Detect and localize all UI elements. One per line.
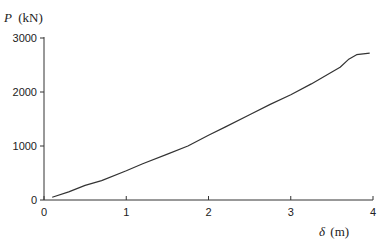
- y-axis-title: P (kN): [3, 10, 43, 25]
- y-tick-label: 2000: [13, 86, 37, 98]
- y-tick-label: 1000: [13, 140, 37, 152]
- y-axis: 0100020003000: [13, 32, 44, 206]
- x-axis-title: δ (m): [319, 224, 349, 239]
- x-tick-label: 1: [123, 206, 129, 218]
- y-tick-label: 3000: [13, 32, 37, 44]
- data-line: [52, 53, 370, 197]
- x-tick-label: 2: [205, 206, 211, 218]
- load-displacement-chart: 0100020003000 01234 P (kN) δ (m): [0, 0, 389, 250]
- y-tick-label: 0: [31, 194, 37, 206]
- y-axis-unit: (kN): [18, 10, 43, 25]
- x-tick-label: 4: [370, 206, 376, 218]
- x-axis-symbol: δ: [319, 224, 326, 239]
- y-axis-symbol: P: [3, 10, 12, 25]
- x-axis-unit: (m): [330, 224, 349, 239]
- x-tick-label: 0: [41, 206, 47, 218]
- x-tick-label: 3: [288, 206, 294, 218]
- x-axis: 01234: [41, 196, 376, 218]
- series-layer: [52, 53, 370, 197]
